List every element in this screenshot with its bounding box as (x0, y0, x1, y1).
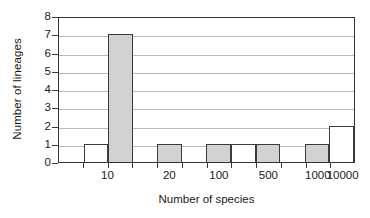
x-axis-title: Number of species (58, 193, 355, 205)
bar-slot-4 (133, 18, 158, 162)
y-tick-label-3: 3 (33, 103, 51, 115)
bar-slot-6 (182, 18, 207, 162)
bar-slot-2 (84, 18, 109, 162)
bar-slot-5 (157, 18, 182, 162)
bar-slot-8 (231, 18, 256, 162)
bar-slot-12 (329, 18, 354, 162)
bar-7-value-1 (206, 144, 231, 162)
bar-8-value-1 (231, 144, 256, 162)
x-tick-label-20: 20 (163, 168, 176, 183)
bar-slot-10 (280, 18, 305, 162)
y-tick-mark-5 (52, 72, 58, 73)
bar-series (59, 18, 354, 162)
x-tick-label-10000: 10000 (327, 168, 359, 183)
y-tick-mark-1 (52, 145, 58, 146)
bar-5-value-1 (157, 144, 182, 162)
y-tick-label-6: 6 (33, 48, 51, 60)
bar-slot-7 (206, 18, 231, 162)
y-tick-label-7: 7 (33, 30, 51, 42)
y-tick-mark-8 (52, 17, 58, 18)
bar-slot-1 (59, 18, 84, 162)
y-axis-title: Number of lineages (11, 19, 23, 159)
bar-3-value-7 (108, 34, 133, 162)
y-tick-mark-0 (52, 163, 58, 164)
bar-slot-9 (256, 18, 281, 162)
y-tick-label-4: 4 (33, 84, 51, 96)
x-tick-label-500: 500 (259, 168, 278, 183)
y-axis-tick-labels: 012345678 (33, 17, 51, 163)
x-axis-tick-labels: 1020100500100010000 (58, 168, 355, 184)
bar-12-value-2 (329, 126, 354, 163)
bar-2-value-1 (84, 144, 109, 162)
y-tick-label-0: 0 (33, 157, 51, 169)
y-tick-mark-7 (52, 35, 58, 36)
bar-slot-11 (305, 18, 330, 162)
y-tick-label-2: 2 (33, 121, 51, 133)
y-tick-mark-2 (52, 127, 58, 128)
bar-9-value-1 (256, 144, 281, 162)
y-tick-label-1: 1 (33, 139, 51, 151)
y-tick-mark-6 (52, 54, 58, 55)
histogram-figure: Number of lineages 012345678 10201005001… (0, 0, 370, 218)
y-tick-label-8: 8 (33, 11, 51, 23)
plot-area (58, 17, 355, 163)
y-tick-mark-4 (52, 90, 58, 91)
bar-slot-3 (108, 18, 133, 162)
y-tick-mark-3 (52, 108, 58, 109)
x-tick-label-100: 100 (209, 168, 228, 183)
bar-11-value-1 (305, 144, 330, 162)
x-tick-label-10: 10 (101, 168, 114, 183)
y-tick-label-5: 5 (33, 66, 51, 78)
